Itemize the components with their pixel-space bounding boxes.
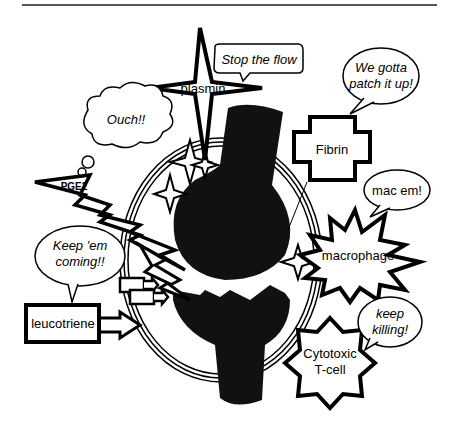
pge2-thought: Ouch!! — [77, 82, 173, 182]
leucotriene-speech-line2: coming!! — [55, 254, 105, 269]
tcell-label-line1: Cytotoxic — [303, 346, 357, 361]
tcell-speech: keep killing! — [358, 297, 422, 350]
plasmin-label: plasmin — [181, 81, 226, 96]
leucotriene-small-boxes — [120, 278, 168, 304]
leucotriene-speech: Keep 'em coming!! — [35, 226, 125, 302]
fibrin-speech-line1: We gotta — [355, 60, 407, 75]
pge2-label: PGE2 — [61, 181, 88, 192]
diagram-canvas: plasmin Stop the flow Ouch!! PGE2 Fibrin… — [0, 0, 459, 429]
fibrin-label: Fibrin — [316, 142, 349, 157]
leucotriene-actor: leucotriene — [26, 305, 140, 342]
macrophage-speech: mac em! — [364, 170, 430, 217]
tcell-speech-line2: killing! — [372, 322, 409, 337]
fibrin-speech: We gotta patch it up! — [343, 48, 419, 114]
macrophage-label: macrophage — [322, 248, 394, 263]
plasmin-speech-text: Stop the flow — [221, 52, 298, 67]
macrophage-speech-text: mac em! — [372, 183, 422, 198]
tcell-label-line2: T-cell — [314, 362, 345, 377]
leucotriene-speech-line1: Keep 'em — [53, 238, 108, 253]
bone-upper — [174, 105, 291, 280]
plasmin-speech: Stop the flow — [214, 44, 303, 81]
tcell-speech-line1: keep — [376, 306, 404, 321]
fibrin-speech-line2: patch it up! — [348, 76, 413, 91]
leucotriene-label: leucotriene — [31, 316, 95, 331]
pge2-thought-text: Ouch!! — [107, 112, 146, 127]
bone-lower — [173, 285, 290, 405]
